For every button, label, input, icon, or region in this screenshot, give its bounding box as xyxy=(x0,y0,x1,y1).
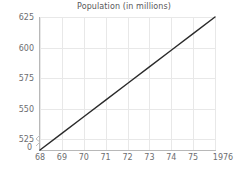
axis-break-icon xyxy=(36,135,40,146)
data-line-layer xyxy=(0,0,248,177)
population-line xyxy=(40,17,215,150)
chart-container: Population (in millions) 625 600 575 550… xyxy=(0,0,248,177)
